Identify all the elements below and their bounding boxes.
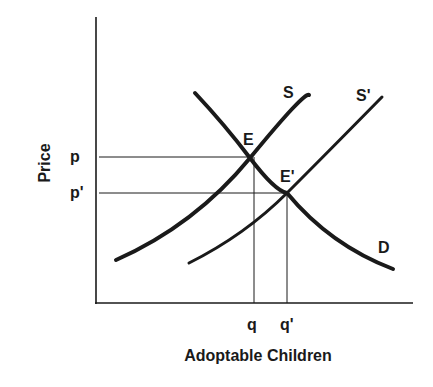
label-e-prime: E' bbox=[280, 168, 294, 185]
label-p-prime: p' bbox=[70, 184, 84, 201]
label-q-prime: q' bbox=[280, 316, 294, 333]
supply-demand-diagram: S S' D E E' p p' q q' Adoptable Children… bbox=[0, 0, 433, 387]
label-e: E bbox=[243, 131, 254, 148]
label-q: q bbox=[247, 316, 257, 333]
label-s: S bbox=[283, 84, 294, 101]
x-axis-title: Adoptable Children bbox=[184, 347, 332, 364]
label-d: D bbox=[378, 239, 390, 256]
label-s-prime: S' bbox=[356, 87, 370, 104]
label-p: p bbox=[70, 148, 80, 165]
y-axis-title: Price bbox=[36, 143, 53, 182]
